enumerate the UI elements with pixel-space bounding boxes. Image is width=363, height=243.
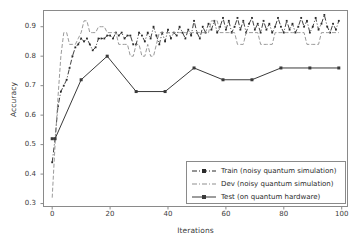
- chart-legend: Train (noisy quantum simulation) Dev (no…: [186, 161, 346, 204]
- x-tick-label: 60: [211, 210, 241, 218]
- legend-item-dev: Dev (noisy quantum simulation): [191, 178, 334, 190]
- x-tick-label: 100: [327, 210, 357, 218]
- y-tick-label: 0.5: [10, 140, 36, 148]
- plot-canvas: [0, 0, 363, 243]
- y-axis-label: Accuracy: [9, 65, 18, 135]
- chart-figure: Accuracy Iterations 0.30.40.50.60.70.80.…: [0, 0, 363, 243]
- y-tick-label: 0.3: [10, 199, 36, 207]
- y-tick-label: 0.9: [10, 22, 36, 30]
- legend-swatch-test-icon: [191, 192, 217, 202]
- x-axis-label: Iterations: [43, 226, 348, 235]
- x-tick-label: 20: [95, 210, 125, 218]
- x-tick-label: 0: [37, 210, 67, 218]
- legend-label-dev: Dev (noisy quantum simulation): [221, 180, 334, 188]
- y-tick-label: 0.4: [10, 170, 36, 178]
- x-tick-label: 80: [269, 210, 299, 218]
- x-tick-label: 40: [153, 210, 183, 218]
- legend-item-train: Train (noisy quantum simulation): [191, 165, 336, 177]
- y-tick-label: 0.8: [10, 52, 36, 60]
- y-tick-label: 0.7: [10, 81, 36, 89]
- legend-swatch-train-icon: [191, 166, 217, 176]
- legend-item-test: Test (on quantum hardware): [191, 191, 320, 203]
- legend-swatch-dev-icon: [191, 179, 217, 189]
- y-tick-label: 0.6: [10, 111, 36, 119]
- legend-label-test: Test (on quantum hardware): [221, 193, 320, 201]
- legend-label-train: Train (noisy quantum simulation): [221, 167, 336, 175]
